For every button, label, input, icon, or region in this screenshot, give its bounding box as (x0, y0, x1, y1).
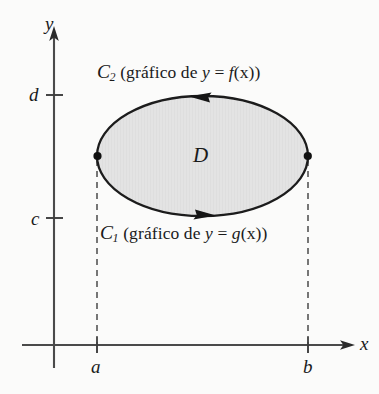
upper-curve-caption: C2 (gráfico de y = f(x)) (97, 62, 260, 83)
upper-caption-variable: y (202, 62, 210, 82)
lower-caption-argument: (x) (241, 223, 262, 243)
lower-curve-symbol: C (100, 222, 113, 243)
upper-curve-symbol: C (97, 61, 110, 82)
upper-caption-open: (gráfico de (116, 62, 202, 82)
left-vertex-dot (93, 152, 101, 160)
lower-caption-function: g (232, 223, 241, 243)
y-tick-label-d: d (29, 85, 39, 104)
y-axis-label: y (45, 14, 53, 33)
upper-caption-equals: = (210, 62, 229, 82)
lower-curve-caption: C1 (gráfico de y = g(x)) (100, 223, 267, 244)
lower-caption-close: ) (261, 223, 267, 243)
y-tick-label-c: c (31, 209, 39, 228)
upper-caption-argument: (x) (234, 62, 255, 82)
figure-canvas: y x d c a b D C2 (gráfico de y = f(x)) C… (0, 0, 379, 394)
upper-caption-close: ) (255, 62, 261, 82)
lower-caption-equals: = (213, 223, 232, 243)
right-vertex-dot (304, 152, 312, 160)
lower-caption-variable: y (205, 223, 213, 243)
region-d-label: D (193, 145, 208, 166)
diagram-graphics (0, 0, 379, 394)
lower-caption-open: (gráfico de (119, 223, 205, 243)
x-axis-label: x (360, 334, 368, 353)
x-tick-label-a: a (91, 357, 101, 376)
x-tick-label-b: b (303, 357, 313, 376)
